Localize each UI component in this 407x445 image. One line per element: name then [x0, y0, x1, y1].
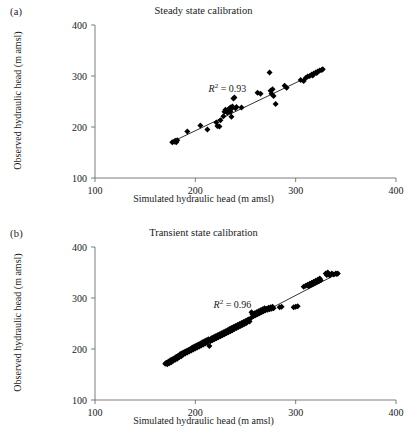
- panel-a-ylabel: Observed hydraulic head (m amsl): [12, 26, 23, 176]
- svg-text:200: 200: [72, 122, 87, 133]
- svg-text:100: 100: [72, 173, 87, 184]
- svg-text:400: 400: [72, 20, 87, 31]
- panel-b: (b) Transient state calibration 10020030…: [0, 222, 407, 444]
- panel-a: (a) Steady state calibration 10020030040…: [0, 0, 407, 222]
- svg-text:300: 300: [72, 293, 87, 304]
- svg-text:300: 300: [72, 71, 87, 82]
- svg-text:100: 100: [72, 395, 87, 406]
- r-squared-annotation: R2 = 0.93: [208, 82, 247, 94]
- panel-b-xlabel: Simulated hydraulic head (m amsl): [0, 415, 407, 426]
- panel-b-ylabel: Observed hydraulic head (m amsl): [12, 248, 23, 398]
- panel-a-plot: 100200300400100200300400R2 = 0.93: [0, 0, 407, 200]
- panel-a-xlabel: Simulated hydraulic head (m amsl): [0, 193, 407, 204]
- svg-text:200: 200: [72, 344, 87, 355]
- figure-calibration-scatterplots: (a) Steady state calibration 10020030040…: [0, 0, 407, 445]
- r-squared-annotation: R2 = 0.96: [213, 298, 252, 310]
- panel-b-plot: 100200300400100200300400R2 = 0.96: [0, 222, 407, 422]
- svg-text:400: 400: [72, 242, 87, 253]
